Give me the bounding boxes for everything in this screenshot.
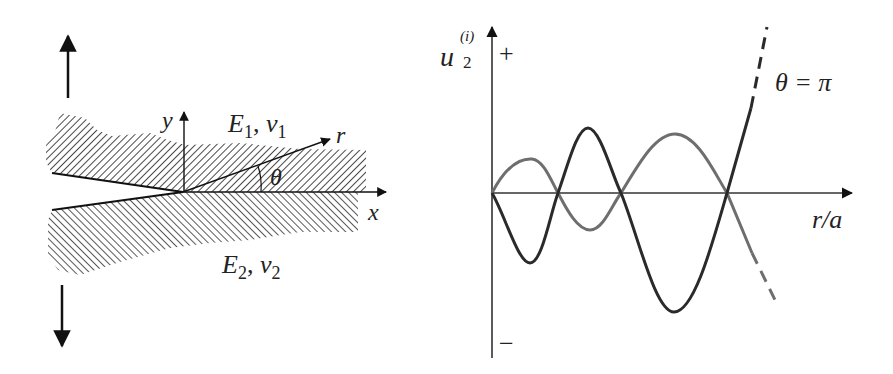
plus-sign: +	[499, 39, 514, 68]
chart-y-label-sup: (i)	[460, 28, 474, 45]
minus-sign: −	[499, 329, 514, 358]
gray-curve-dashed-extension	[752, 253, 776, 302]
dark-curve-dashed-extension	[751, 27, 767, 108]
chart-y-label-sub: 2	[463, 53, 472, 72]
figure-canvas: y x r θ E1, v1 E2, v2 u 2 (i) + − r/a θ …	[0, 0, 893, 374]
theta-pi-annotation: θ = π	[775, 68, 832, 97]
dark-curve	[492, 108, 751, 312]
upper-material-region	[46, 113, 366, 192]
chart-y-label: u	[440, 41, 454, 72]
material-2-label: E2, v2	[221, 250, 280, 283]
x-axis-label: x	[367, 199, 379, 225]
material-1-label: E1, v1	[227, 109, 286, 142]
displacement-chart: u 2 (i) + − r/a θ = π	[440, 27, 852, 358]
r-label: r	[336, 122, 346, 148]
bimaterial-crack-diagram: y x r θ E1, v1 E2, v2	[46, 36, 386, 346]
chart-x-label: r/a	[812, 205, 842, 234]
y-axis-label: y	[160, 107, 173, 133]
theta-label: θ	[270, 164, 282, 190]
